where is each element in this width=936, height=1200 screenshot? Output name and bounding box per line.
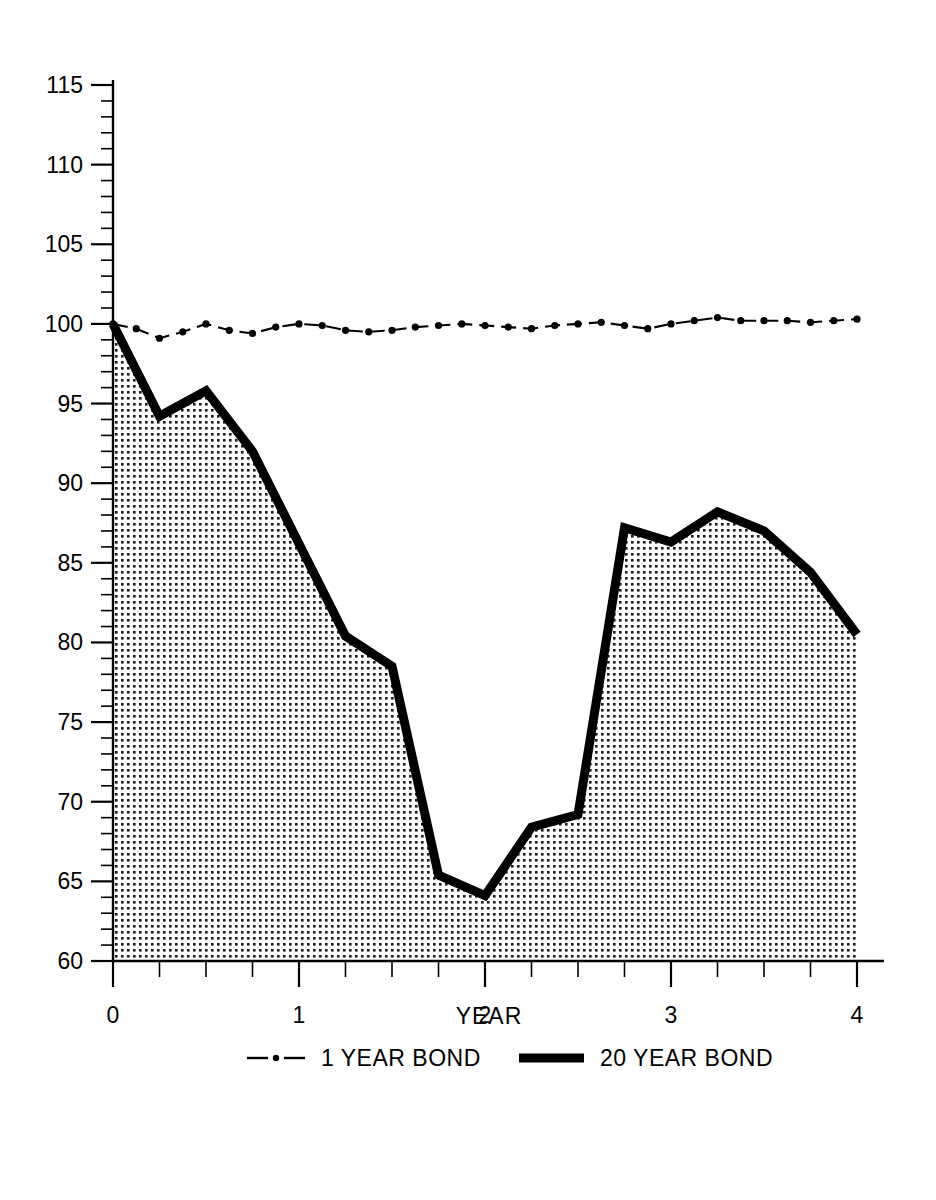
- series-data-point: [365, 328, 372, 335]
- series-data-point: [714, 314, 721, 321]
- series-data-point: [226, 327, 233, 334]
- series-data-point: [133, 325, 140, 332]
- series-data-point: [667, 320, 674, 327]
- y-tick-label: 110: [46, 152, 83, 178]
- series-data-point: [807, 319, 814, 326]
- series-data-point: [412, 323, 419, 330]
- series-data-point: [272, 323, 279, 330]
- series-data-point: [481, 322, 488, 329]
- series-data-point: [574, 320, 581, 327]
- series-data-point: [528, 325, 535, 332]
- chart-container: 6065707580859095100105110115 01234 YEAR …: [0, 0, 936, 1200]
- series-data-point: [202, 320, 209, 327]
- series-data-point: [458, 320, 465, 327]
- series-data-point: [830, 317, 837, 324]
- series-data-point: [388, 327, 395, 334]
- series-data-point: [505, 323, 512, 330]
- series-data-point: [737, 317, 744, 324]
- series-data-point: [156, 335, 163, 342]
- y-tick-label: 75: [57, 709, 83, 735]
- legend-dot-icon: [273, 1055, 279, 1061]
- y-tick-label: 100: [45, 311, 83, 337]
- x-axis-title: YEAR: [456, 1003, 523, 1029]
- series-data-point: [319, 322, 326, 329]
- y-tick-label: 60: [57, 948, 83, 974]
- series-data-point: [621, 322, 628, 329]
- x-tick-label: 4: [851, 1002, 864, 1028]
- y-tick-label: 70: [57, 789, 83, 815]
- x-tick-label: 0: [107, 1002, 120, 1028]
- series-data-point: [691, 317, 698, 324]
- legend-label-20-year-bond: 20 YEAR BOND: [600, 1045, 773, 1071]
- y-tick-label: 85: [57, 550, 83, 576]
- series-data-point: [179, 328, 186, 335]
- series-data-point: [295, 320, 302, 327]
- y-tick-label: 90: [57, 470, 83, 496]
- y-tick-label: 80: [57, 629, 83, 655]
- series-data-point: [435, 322, 442, 329]
- bond-price-chart: 6065707580859095100105110115 01234 YEAR …: [0, 0, 936, 1200]
- series-data-point: [551, 322, 558, 329]
- x-tick-label: 1: [293, 1002, 306, 1028]
- series-data-point: [598, 319, 605, 326]
- y-tick-label: 65: [57, 868, 83, 894]
- y-tick-label: 95: [57, 391, 83, 417]
- x-tick-label: 3: [665, 1002, 678, 1028]
- series-data-point: [342, 327, 349, 334]
- legend-label-1-year-bond: 1 YEAR BOND: [321, 1045, 481, 1071]
- series-data-point: [644, 325, 651, 332]
- series-data-point: [784, 317, 791, 324]
- y-tick-label: 105: [45, 231, 83, 257]
- series-data-point: [853, 316, 860, 323]
- y-tick-label: 115: [46, 72, 83, 98]
- series-data-point: [249, 330, 256, 337]
- series-data-point: [760, 317, 767, 324]
